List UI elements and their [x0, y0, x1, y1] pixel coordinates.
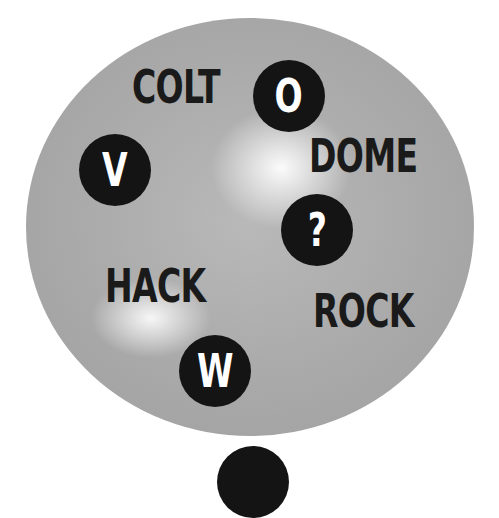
word-dome: DOME: [309, 133, 417, 179]
badge-letter: W: [197, 348, 234, 394]
badge-letter-w: W: [179, 335, 251, 407]
badge-letter-o: O: [253, 60, 325, 132]
partial-badge-below: [217, 446, 289, 518]
badge-letter-v: V: [79, 134, 151, 206]
word-rock: ROCK: [313, 288, 414, 334]
word-colt: COLT: [132, 64, 220, 110]
question-mark-icon: ?: [307, 207, 326, 253]
word-hack: HACK: [105, 263, 205, 309]
badge-letter: V: [102, 147, 128, 193]
badge-question-mark: ?: [281, 194, 353, 266]
badge-letter: O: [275, 73, 303, 119]
